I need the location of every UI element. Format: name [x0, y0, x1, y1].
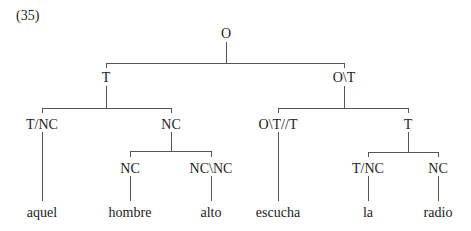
leaf-word: aquel: [27, 205, 57, 220]
category-node: O\T: [333, 70, 356, 85]
example-number: (35): [16, 8, 40, 24]
category-node: O\T//T: [259, 117, 298, 132]
categorial-grammar-tree: (35) OTO\TT/NCNCO\T//TTNCNC\NCT/NCNCaque…: [0, 0, 471, 231]
category-node: T: [404, 117, 413, 132]
leaf-word: hombre: [109, 205, 152, 220]
category-node: T/NC: [26, 117, 58, 132]
leaf-word: alto: [201, 205, 222, 220]
leaf-word: radio: [424, 205, 453, 220]
category-node: T: [102, 70, 111, 85]
category-node: NC: [161, 117, 180, 132]
category-node: O: [221, 26, 231, 41]
category-node: NC: [428, 161, 447, 176]
tree-edges: [42, 42, 438, 201]
category-node: NC\NC: [190, 161, 233, 176]
tree-nodes: OTO\TT/NCNCO\T//TTNCNC\NCT/NCNCaquelhomb…: [26, 26, 452, 220]
leaf-word: la: [363, 205, 374, 220]
category-node: NC: [120, 161, 139, 176]
leaf-word: escucha: [256, 205, 301, 220]
category-node: T/NC: [352, 161, 384, 176]
